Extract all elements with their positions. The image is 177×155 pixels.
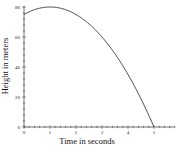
x-axis: 012345 (23, 125, 175, 135)
y-tick-label: 80 (15, 5, 21, 10)
x-tick-label: 1 (49, 130, 52, 135)
y-tick-label: 20 (15, 95, 21, 100)
trajectory-chart: 020406080 012345 Time in seconds Height … (0, 0, 177, 155)
height-curve (24, 7, 154, 127)
x-tick-label: 0 (23, 130, 26, 135)
y-axis: 020406080 (15, 5, 26, 130)
y-tick-label: 0 (18, 125, 21, 130)
y-axis-title: Height in meters (0, 38, 10, 95)
x-tick-label: 2 (75, 130, 78, 135)
y-tick-label: 60 (15, 35, 21, 40)
x-tick-label: 3 (101, 130, 104, 135)
y-tick-label: 40 (15, 65, 21, 70)
x-tick-label: 5 (153, 130, 156, 135)
x-axis-title: Time in seconds (59, 136, 114, 146)
x-tick-label: 4 (127, 130, 130, 135)
